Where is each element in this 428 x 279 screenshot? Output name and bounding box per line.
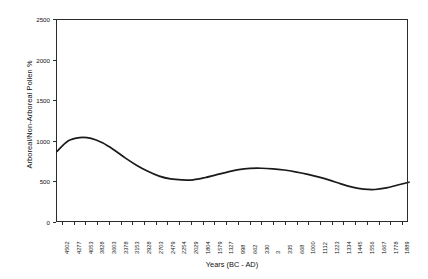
y-axis-tick-label: 500	[26, 178, 53, 185]
x-axis-tick-mark	[273, 222, 274, 225]
x-axis-tick-mark	[320, 222, 321, 225]
x-axis-tick-mark	[74, 222, 75, 225]
pollen-series-line	[57, 19, 409, 222]
x-axis-tick-label: 4502	[64, 241, 70, 254]
x-axis-tick-label: 1556	[369, 241, 375, 254]
x-axis-tick-mark	[332, 222, 333, 225]
x-axis-tick-label: 2029	[193, 241, 199, 254]
x-axis-tick-label-group: 4502427740533828360333783153292827032479…	[56, 226, 408, 256]
x-axis-tick-label: 3603	[111, 241, 117, 254]
x-axis-tick-label: 1000	[310, 241, 316, 254]
x-axis-tick-label: 668	[299, 245, 305, 254]
x-axis-tick-label: 3828	[99, 241, 105, 254]
x-axis-tick-mark	[167, 222, 168, 225]
x-axis-tick-label: 1327	[228, 241, 234, 254]
y-axis-tick-label: 1000	[26, 137, 53, 144]
x-axis-tick-label: 2703	[158, 241, 164, 254]
x-axis-tick-label: 1112	[322, 242, 328, 254]
x-axis-tick-label: 3378	[123, 241, 129, 254]
x-axis-tick-label: 330	[264, 245, 270, 254]
plot-top-border	[56, 19, 408, 20]
x-axis-tick-label: 4277	[76, 241, 82, 254]
x-axis-tick-mark	[308, 222, 309, 225]
series-path	[57, 137, 409, 189]
x-axis-tick-mark	[85, 222, 86, 225]
x-axis-tick-label: 3153	[134, 241, 140, 254]
x-axis-tick-mark	[379, 222, 380, 225]
x-axis-tick-label: 998	[240, 245, 246, 254]
y-axis-tick-label: 2500	[26, 16, 53, 23]
x-axis-tick-mark	[97, 222, 98, 225]
x-axis-tick-label: 1667	[381, 241, 387, 254]
x-axis-tick-mark	[121, 222, 122, 225]
x-axis-tick-mark	[144, 222, 145, 225]
x-axis-tick-mark	[191, 222, 192, 225]
x-axis-tick-label: 1445	[357, 241, 363, 254]
x-axis-tick-label: 1223	[334, 241, 340, 254]
x-axis-title: Years (BC - AD)	[56, 260, 408, 269]
x-axis-tick-mark	[156, 222, 157, 225]
x-axis-tick-mark	[109, 222, 110, 225]
x-axis-tick-mark	[203, 222, 204, 225]
x-axis-tick-label: 1804	[205, 241, 211, 254]
x-axis-tick-mark	[62, 222, 63, 225]
x-axis-tick-mark	[226, 222, 227, 225]
x-axis-tick-label: 662	[252, 245, 258, 254]
x-axis-tick-mark	[402, 222, 403, 225]
x-axis-tick-mark	[390, 222, 391, 225]
x-axis-tick-label: 335	[287, 245, 293, 254]
x-axis-tick-label: 1579	[217, 241, 223, 254]
x-axis-tick-label: 1778	[393, 241, 399, 254]
x-axis-tick-label: 1334	[346, 241, 352, 254]
plot-area	[56, 19, 408, 222]
x-axis-tick-label: 1889	[404, 241, 410, 254]
x-axis-tick-label: 2479	[170, 241, 176, 254]
x-axis-tick-label: 4053	[88, 241, 94, 254]
x-axis-tick-mark	[179, 222, 180, 225]
x-axis-tick-mark	[285, 222, 286, 225]
x-axis-tick-mark	[238, 222, 239, 225]
y-axis-tick-label: 1500	[26, 97, 53, 104]
x-axis-tick-mark	[250, 222, 251, 225]
y-axis-tick-label: 2000	[26, 56, 53, 63]
x-axis-tick-mark	[261, 222, 262, 225]
x-axis-tick-label: 2928	[146, 241, 152, 254]
x-axis-tick-mark	[297, 222, 298, 225]
y-axis-tick-label: 0	[26, 219, 53, 226]
plot-right-border	[407, 19, 408, 222]
x-axis-tick-label: 2254	[181, 241, 187, 254]
x-axis-tick-mark	[214, 222, 215, 225]
pollen-line-chart: Arboreal/Non-Arboreal Pollen % 050010001…	[0, 0, 428, 279]
x-axis-tick-mark	[132, 222, 133, 225]
x-axis-tick-mark	[343, 222, 344, 225]
x-axis-tick-mark	[355, 222, 356, 225]
y-axis-tick-label-group: 05001000150020002500	[26, 0, 53, 279]
x-axis-tick-label: 3	[275, 251, 281, 254]
x-axis-tick-mark	[367, 222, 368, 225]
